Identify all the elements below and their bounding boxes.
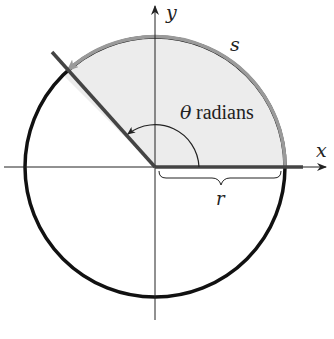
arc-s-label: s: [230, 33, 240, 55]
x-axis-label: x: [316, 139, 327, 161]
diagram-canvas: y x s r θ radians: [0, 0, 334, 339]
y-axis-label: y: [165, 1, 177, 23]
radius-label: r: [216, 188, 226, 209]
angle-unit-label: radians: [196, 101, 254, 123]
radian-diagram: y x s r θ radians: [0, 0, 334, 339]
radius-brace: [159, 171, 281, 185]
theta-symbol: θ: [180, 101, 192, 123]
